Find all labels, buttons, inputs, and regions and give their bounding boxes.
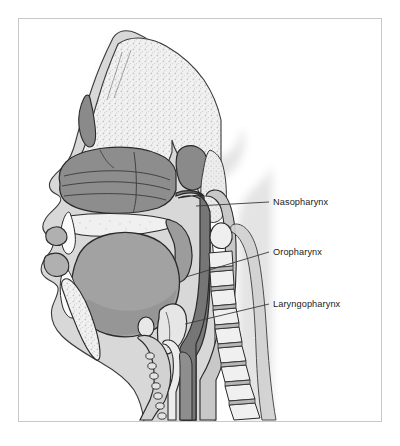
- label-laryngopharynx: Laryngopharynx: [273, 299, 341, 309]
- hyoid-bone: [138, 317, 154, 337]
- anatomy-diagram: Nasopharynx Oropharynx Laryngopharynx: [0, 0, 400, 446]
- label-nasopharynx: Nasopharynx: [273, 197, 329, 207]
- label-oropharynx: Oropharynx: [273, 247, 322, 257]
- esophagus: [180, 352, 193, 420]
- figure-root: Nasopharynx Oropharynx Laryngopharynx: [0, 0, 400, 446]
- nasal-cavity-conchae: [59, 147, 176, 213]
